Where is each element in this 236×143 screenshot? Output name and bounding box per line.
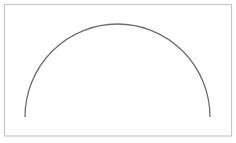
diagram-canvas <box>0 0 236 143</box>
semicircle-diagram <box>0 0 236 143</box>
